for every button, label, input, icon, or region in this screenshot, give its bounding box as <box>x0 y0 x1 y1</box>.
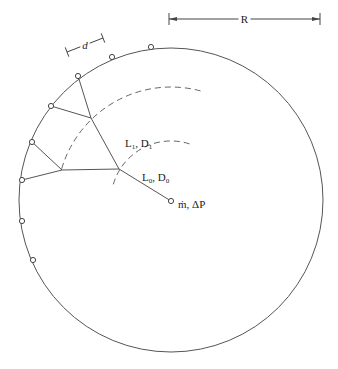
outer-dashed-arc <box>61 87 201 171</box>
label-L0-D0: L0, D0 <box>142 171 170 185</box>
arrow-left-icon <box>169 17 177 21</box>
outlet-node <box>30 257 35 262</box>
outlet-node <box>48 103 53 108</box>
spacing-label: d <box>82 39 88 51</box>
arrow-right-icon <box>312 17 320 21</box>
outlet-nodes <box>19 44 153 262</box>
branch-segment <box>51 106 91 118</box>
branch-segment <box>78 76 91 118</box>
inlet-node <box>168 198 173 203</box>
label-inlet-flow: ṁ, ΔP <box>178 198 205 210</box>
branching-network-diagram: R d L1, D1 L0, D0 ṁ, ΔP <box>0 0 338 369</box>
branch-segment <box>62 169 119 170</box>
outlet-node <box>109 54 114 59</box>
spacing-line-right <box>90 38 103 43</box>
radius-label: R <box>241 13 249 25</box>
spacing-line-left <box>67 47 80 52</box>
outlet-node <box>75 73 80 78</box>
outlet-node <box>29 139 34 144</box>
outlet-node <box>148 44 153 49</box>
outlet-node <box>19 177 24 182</box>
branch-segment <box>32 142 62 170</box>
branch-segment <box>91 118 119 169</box>
branch-segment <box>22 170 62 180</box>
outlet-node <box>19 218 24 223</box>
label-L1-D1: L1, D1 <box>125 137 153 151</box>
